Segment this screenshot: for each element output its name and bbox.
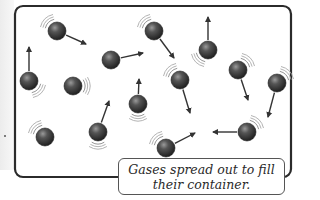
particle-sphere [199,41,217,59]
particle-sphere [89,123,107,141]
gas-particle [102,51,143,69]
gas-particle [213,115,264,141]
particle-sphere [20,72,38,90]
gas-particle [28,120,54,146]
particle-sphere [64,77,82,95]
velocity-arrow-icon [138,79,139,94]
gas-particle [229,53,255,100]
caption-box: Gases spread out to fill their container… [118,158,285,195]
velocity-arrow-icon [183,90,190,113]
velocity-arrow-icon [101,101,109,123]
gas-particle [40,14,86,44]
gas-particle [89,101,109,149]
gas-particles [20,14,294,157]
velocity-arrow-icon [66,35,86,44]
gas-particle [129,79,147,121]
particle-sphere [102,51,120,69]
vibration-mark [90,144,105,146]
vibration-mark [132,114,145,116]
particle-sphere [268,74,286,92]
vibration-mark [130,116,145,118]
velocity-arrow-icon [175,133,195,143]
velocity-arrow-icon [121,53,143,58]
particle-sphere [129,95,147,113]
gas-particle [64,77,90,95]
particle-sphere [145,22,163,40]
particle-sphere [229,61,247,79]
vibration-mark [92,142,105,144]
velocity-arrow-icon [268,93,274,117]
particle-sphere [157,139,175,157]
gas-particle [137,14,174,58]
gas-particle [191,17,217,67]
caption-text: Gases spread out to fill their container… [125,162,278,192]
gas-particle [20,47,46,98]
velocity-arrow-icon [160,39,174,58]
particle-sphere [238,123,256,141]
gas-particle [149,131,195,157]
vibration-mark [85,78,87,93]
particle-sphere [48,22,66,40]
particle-sphere [171,71,189,89]
vibration-mark [83,80,85,93]
gas-particle [268,66,294,117]
particle-sphere [36,128,54,146]
velocity-arrow-icon [241,79,248,100]
gas-particle [163,63,190,113]
